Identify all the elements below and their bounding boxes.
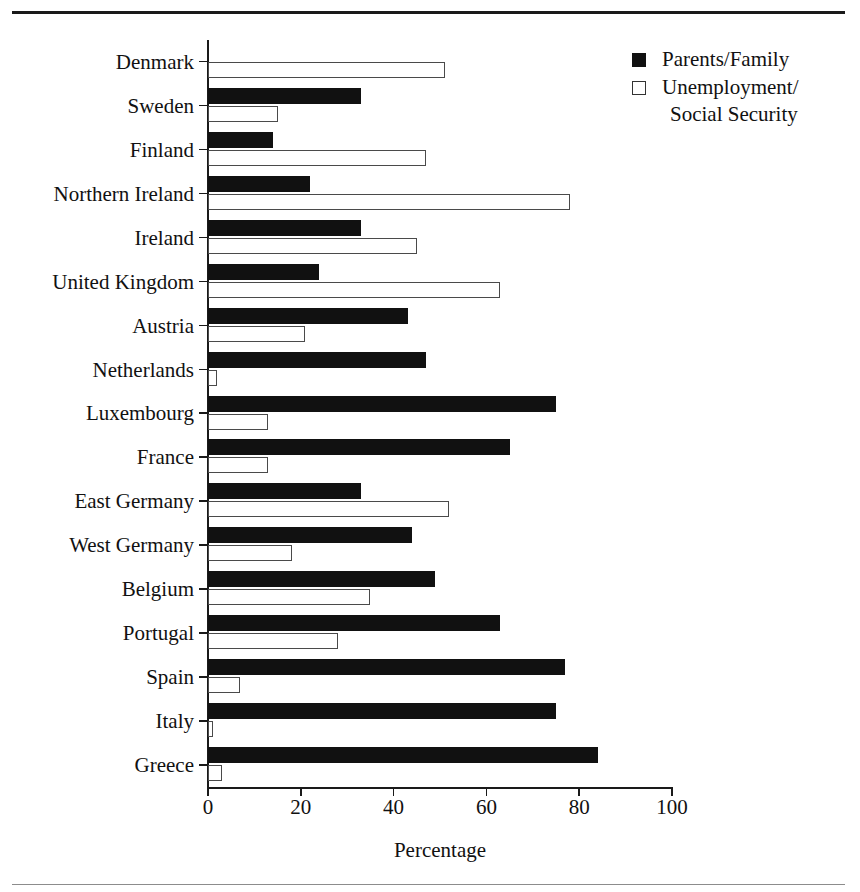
x-axis-title: Percentage [208,838,672,863]
plot-area: DenmarkSwedenFinlandNorthern IrelandIrel… [208,40,672,787]
bar-parents-family [208,396,556,412]
bar-unemployment-social-security [208,414,268,430]
bar-unemployment-social-security [208,457,268,473]
chart-legend: Parents/Family Unemployment/ Social Secu… [632,46,848,129]
legend-label-parents-family: Parents/Family [662,46,848,73]
category-label: Netherlands [93,359,194,380]
bar-row: Portugal [208,611,672,655]
category-label: Spain [146,667,194,688]
y-axis-tick [199,720,208,722]
bar-unemployment-social-security [208,326,305,342]
bar-parents-family [208,132,273,148]
category-label: Sweden [128,95,195,116]
x-axis-tick-label: 60 [476,797,497,818]
bar-unemployment-social-security [208,545,292,561]
bar-row: Ireland [208,216,672,260]
x-axis-tick-label: 80 [569,797,590,818]
bar-parents-family [208,483,361,499]
bar-unemployment-social-security [208,501,449,517]
bar-parents-family [208,220,361,236]
y-axis-tick [199,237,208,239]
category-label: Finland [130,139,194,160]
y-axis-tick [199,764,208,766]
y-axis-tick [199,456,208,458]
y-axis-tick [199,632,208,634]
category-label: Northern Ireland [53,183,194,204]
bar-row: Belgium [208,567,672,611]
bar-parents-family [208,176,310,192]
category-label: Denmark [116,51,194,72]
y-axis-tick [199,149,208,151]
bar-unemployment-social-security [208,370,217,386]
y-axis-tick [199,325,208,327]
x-axis-tick-label: 20 [290,797,311,818]
category-label: Austria [132,315,194,336]
legend-item-parents-family: Parents/Family [632,46,848,73]
category-label: Luxembourg [86,403,194,424]
bar-unemployment-social-security [208,238,417,254]
bar-unemployment-social-security [208,194,570,210]
bar-row: East Germany [208,479,672,523]
x-axis-line [207,787,673,789]
y-axis-tick [199,369,208,371]
bar-unemployment-social-security [208,633,338,649]
y-axis-tick [199,500,208,502]
x-axis-tick-label: 0 [203,797,214,818]
y-axis-tick [199,588,208,590]
y-axis-tick [199,105,208,107]
legend-item-unemployment-social-security: Unemployment/ Social Security [632,74,848,128]
category-label: Belgium [122,579,194,600]
category-label: East Germany [74,491,194,512]
bar-row: Luxembourg [208,392,672,436]
x-axis-tick-label: 100 [656,797,688,818]
category-label: Portugal [123,623,194,644]
filled-square-icon [632,53,646,67]
open-square-icon [632,81,646,95]
bar-row: Netherlands [208,348,672,392]
bar-unemployment-social-security [208,150,426,166]
bar-parents-family [208,527,412,543]
bar-parents-family [208,615,500,631]
bar-parents-family [208,571,435,587]
bar-unemployment-social-security [208,106,278,122]
bar-parents-family [208,747,598,763]
bar-row: Greece [208,743,672,787]
bar-row: Finland [208,128,672,172]
bar-row: Sweden [208,84,672,128]
bar-row: Northern Ireland [208,172,672,216]
bar-row: Denmark [208,40,672,84]
category-label: United Kingdom [52,271,194,292]
bar-row: United Kingdom [208,260,672,304]
chart-figure: DenmarkSwedenFinlandNorthern IrelandIrel… [0,0,860,892]
legend-label-unemployment-cont: Social Security [662,101,848,128]
bar-parents-family [208,308,408,324]
bottom-rule [12,884,845,885]
bar-parents-family [208,659,565,675]
bar-unemployment-social-security [208,677,240,693]
bar-unemployment-social-security [208,282,500,298]
category-label: Ireland [135,227,194,248]
legend-label-unemployment: Unemployment/ [662,74,848,101]
bar-unemployment-social-security [208,589,370,605]
bar-row: Austria [208,304,672,348]
y-axis-tick [199,544,208,546]
bar-row: Italy [208,699,672,743]
bar-parents-family [208,264,319,280]
bar-row: Spain [208,655,672,699]
y-axis-tick [199,61,208,63]
y-axis-tick [199,281,208,283]
top-rule [12,11,845,14]
y-axis-tick [199,193,208,195]
category-label: Greece [135,755,194,776]
y-axis-tick [199,412,208,414]
category-label: West Germany [69,535,194,556]
bar-row: France [208,435,672,479]
y-axis-tick [199,676,208,678]
bar-unemployment-social-security [208,765,222,781]
category-label: Italy [156,711,194,732]
bar-parents-family [208,88,361,104]
x-axis-tick-label: 40 [383,797,404,818]
bar-parents-family [208,703,556,719]
bar-unemployment-social-security [208,721,213,737]
bar-row: West Germany [208,523,672,567]
